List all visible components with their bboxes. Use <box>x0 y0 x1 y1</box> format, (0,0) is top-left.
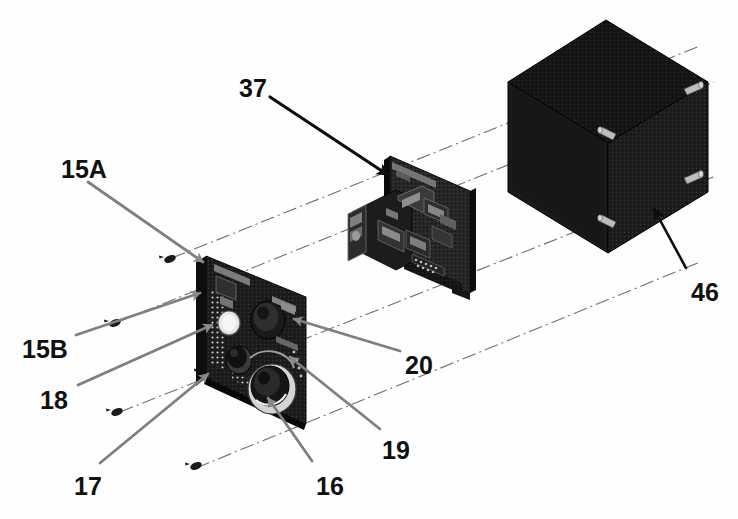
round-indicator-lamp <box>218 311 240 335</box>
assembly-screw <box>185 460 203 471</box>
callout-label-15A: 15A <box>61 157 107 182</box>
assembly-screw-group <box>104 253 212 471</box>
callout-label-37: 37 <box>239 76 267 101</box>
rear-pcb-assembly <box>348 156 476 300</box>
enclosure-housing <box>508 20 708 253</box>
callout-label-18: 18 <box>40 388 68 413</box>
leader-46 <box>654 209 686 268</box>
small-knob <box>226 346 252 374</box>
exploded-assembly-drawing <box>0 0 738 519</box>
leader-15B <box>76 293 200 335</box>
callout-label-19: 19 <box>382 438 410 463</box>
callout-label-20: 20 <box>405 353 433 378</box>
callout-label-15B: 15B <box>22 337 68 362</box>
callout-label-17: 17 <box>74 474 102 499</box>
callout-label-16: 16 <box>316 474 344 499</box>
assembly-screw <box>106 406 124 417</box>
assembly-screw <box>159 253 177 264</box>
front-panel-pcb <box>196 256 306 430</box>
leader-17 <box>100 374 208 463</box>
leader-18 <box>78 325 212 385</box>
leader-15A <box>88 182 203 262</box>
patent-figure-canvas: 37 15A 15B 18 17 16 19 20 46 <box>0 0 738 519</box>
callout-label-46: 46 <box>691 280 719 305</box>
leader-37 <box>270 97 388 175</box>
leader-20 <box>294 319 400 351</box>
large-rotary-connector <box>248 364 296 414</box>
